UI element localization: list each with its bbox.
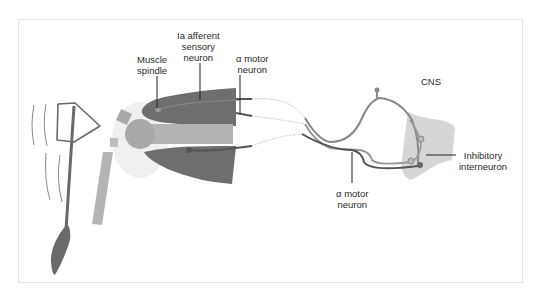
label-line: interneuron: [459, 161, 507, 172]
label-line: Ia afferent: [177, 30, 220, 41]
dorsal-root-ganglion: [375, 88, 380, 93]
motor-endplate: [186, 147, 192, 153]
label-line: spindle: [137, 65, 167, 76]
label-inhibitory-interneuron: Inhibitory interneuron: [459, 150, 507, 172]
afferent-neuron: [305, 92, 418, 164]
label-line: α motor: [336, 188, 368, 199]
label-alpha-motor-bottom: α motor neuron: [336, 188, 368, 210]
label-line: neuron: [236, 64, 268, 75]
stretch-reflex-diagram: [0, 0, 542, 297]
extensor-muscle: [142, 88, 236, 126]
label-line: α motor: [236, 53, 268, 64]
label-line: Muscle: [137, 54, 167, 65]
label-line: neuron: [177, 52, 220, 63]
label-muscle-spindle: Muscle spindle: [137, 54, 167, 76]
label-line: Inhibitory: [459, 150, 507, 161]
label-ia-afferent: Ia afferent sensory neuron: [177, 30, 220, 63]
label-line: sensory: [177, 41, 220, 52]
reflex-hammer: [51, 103, 100, 275]
nerve-connections: [252, 99, 305, 146]
label-alpha-motor-top: α motor neuron: [236, 53, 268, 75]
spinal-cord: [402, 112, 455, 180]
label-line: neuron: [336, 199, 368, 210]
label-cns: CNS: [421, 76, 441, 87]
tendon: [110, 138, 118, 147]
tibia-bone: [92, 152, 113, 225]
